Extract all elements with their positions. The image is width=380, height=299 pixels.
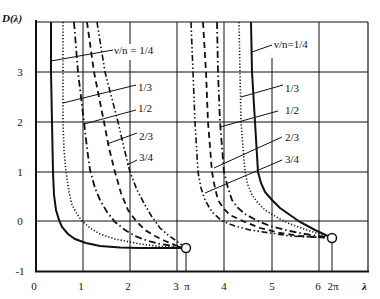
label-left-1-3: 1/3	[138, 81, 153, 93]
pi-markers	[186, 242, 332, 271]
grid	[36, 22, 368, 271]
right-leaders	[205, 45, 283, 193]
svg-text:π: π	[184, 280, 190, 292]
marker-2pi	[328, 234, 337, 243]
curve-right-1-2	[217, 22, 332, 238]
x-axis-title: λ	[361, 280, 367, 292]
svg-text:1: 1	[17, 166, 23, 178]
svg-text:3: 3	[17, 66, 23, 78]
curve-right-3-4	[191, 22, 332, 238]
label-right-1-4: ν/n=1/4	[274, 38, 308, 50]
svg-text:2π: 2π	[327, 280, 339, 292]
svg-text:1: 1	[78, 280, 84, 292]
svg-text:6: 6	[315, 280, 321, 292]
label-left-2-3: 2/3	[139, 130, 154, 142]
svg-text:5: 5	[269, 280, 275, 292]
svg-text:0: 0	[31, 280, 37, 292]
dispersion-chart: ν/n = 1/4 1/3 1/2 2/3 3/4 ν/n=1/4 1/3 1/…	[0, 0, 380, 299]
label-left-3-4: 3/4	[139, 151, 154, 163]
curve-right-1-3	[239, 22, 332, 238]
right-curves	[191, 22, 332, 238]
svg-text:2: 2	[17, 116, 23, 128]
svg-text:0: 0	[17, 215, 23, 227]
marker-pi	[182, 244, 191, 253]
y-axis-title: D(λ)	[1, 12, 22, 25]
svg-text:3: 3	[173, 280, 179, 292]
label-left-1-2: 1/2	[138, 102, 152, 114]
label-right-1-3: 1/3	[285, 82, 300, 94]
label-left-1-4: ν/n = 1/4	[114, 44, 154, 56]
label-right-2-3: 2/3	[285, 131, 300, 143]
y-tick-labels: 3 2 1 0 -1	[15, 66, 24, 277]
label-right-1-2: 1/2	[285, 104, 299, 116]
svg-text:4: 4	[221, 280, 227, 292]
label-right-3-4: 3/4	[285, 153, 300, 165]
curve-right-2-3	[203, 22, 332, 238]
svg-text:2: 2	[125, 280, 131, 292]
svg-text:-1: -1	[15, 265, 24, 277]
curve-right-1-4	[251, 22, 332, 238]
x-tick-labels: 0 1 2 3 π 4 5 6 2π	[31, 280, 339, 292]
